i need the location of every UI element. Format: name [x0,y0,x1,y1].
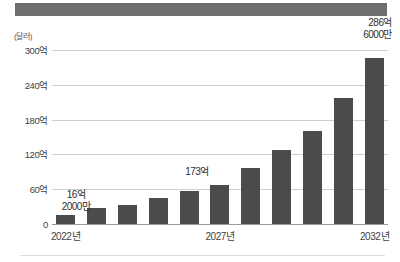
y-axis-ticks: 300억 240억 180억 120억 60억 0 [0,0,48,262]
y-tick-120: 120억 [4,147,48,161]
annotation-first-line1: 16억 [48,189,104,201]
annotation-mid-line1: 173억 [175,166,219,178]
x-label-2032년: 2032년 [360,228,389,243]
annotation-first-bar: 16억 2000만 [48,189,104,213]
annotation-last-bar: 286억 6000만 [330,17,392,41]
annotation-mid-bar: 173억 [175,166,219,178]
y-tick-240: 240억 [4,78,48,92]
bar-2027년 [210,185,229,224]
bar-2031년 [334,98,353,224]
bar-2026년 [180,191,199,224]
y-tick-0: 0 [4,219,48,230]
y-tick-60: 60억 [4,182,48,196]
header-banner [15,3,387,16]
bar-2032년 [365,58,384,224]
annotation-last-line2: 6000만 [330,29,392,41]
annotation-last-line1: 286억 [330,17,392,29]
y-tick-180: 180억 [4,113,48,127]
bar-2029년 [272,150,291,224]
bar-2024년 [118,205,137,224]
bar-2028년 [241,168,260,224]
footer-divider [20,255,385,256]
bar-2025년 [149,198,168,224]
x-axis-labels: 2022년2027년2032년 [52,228,388,244]
bar-2030년 [303,131,322,224]
axis-baseline [52,224,388,225]
bar-chart: (달러) 300억 240억 180억 120억 60억 0 2022년2027… [0,0,400,262]
bar-2022년 [56,215,75,224]
y-tick-300: 300억 [4,43,48,57]
annotation-first-line2: 2000만 [48,201,104,213]
x-label-2027년: 2027년 [205,228,234,243]
x-label-2022년: 2022년 [51,228,80,243]
